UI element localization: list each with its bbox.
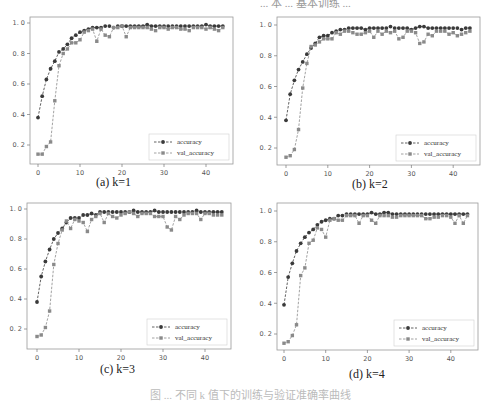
- chart-a-caption: (a) k=1: [96, 175, 131, 190]
- y-tick-label: 0. 2: [260, 144, 272, 152]
- y-tick-label: 0. 6: [260, 269, 272, 277]
- x-tick-label: 30: [160, 169, 168, 177]
- legend: accuracyval_accuracy: [147, 319, 227, 345]
- y-tick-label: 0. 6: [13, 80, 25, 88]
- chart-b-caption: (b) k=2: [352, 177, 388, 192]
- y-tick-label: 0. 4: [260, 300, 272, 308]
- y-tick-label: 0. 4: [10, 295, 22, 303]
- legend: accuracyval_accuracy: [149, 134, 229, 160]
- x-tick-label: 10: [76, 169, 84, 177]
- chart-panel-b: 0. 20. 40. 60. 81. 0010203040accuracyval…: [249, 0, 497, 195]
- chart-panel-c: 0. 20. 40. 60. 81. 0010203040accuracyval…: [0, 195, 248, 380]
- y-tick-label: 0. 8: [13, 50, 25, 58]
- y-tick-label: 0. 8: [260, 52, 272, 60]
- legend-label: val_accuracy: [424, 150, 461, 158]
- x-tick-label: 10: [75, 354, 83, 362]
- legend: accuracyval_accuracy: [394, 320, 474, 346]
- x-tick-label: 20: [363, 355, 371, 363]
- y-tick-label: 1. 0: [260, 21, 272, 29]
- x-tick-label: 40: [449, 170, 457, 178]
- legend-label: accuracy: [422, 324, 447, 332]
- x-tick-label: 40: [447, 355, 455, 363]
- y-tick-label: 0. 2: [260, 330, 272, 338]
- chart-d-caption: (d) k=4: [349, 367, 385, 382]
- x-tick-label: 10: [324, 170, 332, 178]
- legend: accuracyval_accuracy: [396, 135, 476, 161]
- x-tick-label: 40: [201, 354, 209, 362]
- x-tick-label: 0: [284, 170, 288, 178]
- x-tick-label: 10: [322, 355, 330, 363]
- chart-a-plot: 0. 20. 40. 60. 81. 0010203040accuracyval…: [0, 0, 248, 195]
- chart-d-plot: 0. 20. 40. 60. 81. 0010203040accuracyval…: [249, 195, 497, 380]
- x-tick-label: 0: [282, 355, 286, 363]
- x-tick-label: 30: [407, 170, 415, 178]
- y-tick-label: 1. 0: [13, 19, 25, 27]
- chart-b-plot: 0. 20. 40. 60. 81. 0010203040accuracyval…: [249, 0, 497, 195]
- figure-caption: 图 ... 不同 k 值下的训练与验证准确率曲线: [150, 386, 351, 402]
- y-tick-label: 0. 8: [260, 238, 272, 246]
- legend-label: val_accuracy: [175, 334, 212, 342]
- legend-label: accuracy: [177, 138, 202, 146]
- y-tick-label: 1. 0: [260, 207, 272, 215]
- x-tick-label: 40: [202, 169, 210, 177]
- x-tick-label: 20: [117, 354, 125, 362]
- y-tick-label: 0. 2: [10, 325, 22, 333]
- x-tick-label: 0: [35, 354, 39, 362]
- y-tick-label: 0. 4: [13, 111, 25, 119]
- legend-label: val_accuracy: [177, 149, 214, 157]
- y-tick-label: 0. 8: [10, 235, 22, 243]
- y-tick-label: 0. 6: [260, 83, 272, 91]
- chart-c-plot: 0. 20. 40. 60. 81. 0010203040accuracyval…: [0, 195, 248, 380]
- chart-panel-a: 0. 20. 40. 60. 81. 0010203040accuracyval…: [0, 0, 248, 195]
- y-tick-label: 0. 4: [260, 114, 272, 122]
- y-tick-label: 0. 2: [13, 141, 25, 149]
- x-tick-label: 30: [405, 355, 413, 363]
- x-tick-label: 30: [159, 354, 167, 362]
- legend-label: accuracy: [175, 323, 200, 331]
- legend-label: val_accuracy: [422, 335, 459, 343]
- y-tick-label: 0. 6: [10, 265, 22, 273]
- x-tick-label: 0: [36, 169, 40, 177]
- chart-c-caption: (c) k=3: [100, 362, 135, 377]
- y-tick-label: 1. 0: [10, 205, 22, 213]
- legend-label: accuracy: [424, 139, 449, 147]
- chart-panel-d: 0. 20. 40. 60. 81. 0010203040accuracyval…: [249, 195, 497, 380]
